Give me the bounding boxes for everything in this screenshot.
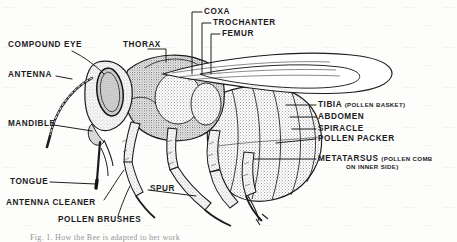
label-tibia-text: TIBIA <box>318 100 342 109</box>
label-abdomen: ABDOMEN <box>318 113 364 121</box>
label-femur: FEMUR <box>222 30 254 38</box>
label-metatarsus-note: (POLLEN COMB <box>381 155 432 162</box>
label-compound-eye: COMPOUND EYE <box>8 41 82 49</box>
label-tibia-note: (POLLEN BASKET) <box>345 101 406 108</box>
label-tibia: TIBIA (POLLEN BASKET) <box>318 101 405 109</box>
label-antenna-cleaner: ANTENNA CLEANER <box>6 199 96 207</box>
label-spur: SPUR <box>150 185 175 193</box>
figure-caption: Fig. 1. How the Bee is adapted to her wo… <box>30 233 430 242</box>
label-coxa: COXA <box>204 8 230 16</box>
label-pollen-packer: POLLEN PACKER <box>318 135 395 143</box>
label-pollen-brushes: POLLEN BRUSHES <box>58 216 141 224</box>
label-mandible: MANDIBLE <box>8 120 56 128</box>
label-metatarsus-note2: ON INNER SIDE) <box>346 164 433 170</box>
label-tongue: TONGUE <box>10 178 48 186</box>
label-metatarsus: METATARSUS (POLLEN COMB ON INNER SIDE) <box>318 155 433 170</box>
label-trochanter: TROCHANTER <box>213 19 276 27</box>
label-spiracle: SPIRACLE <box>318 125 364 133</box>
label-thorax: THORAX <box>123 41 161 49</box>
label-metatarsus-text: METATARSUS <box>318 154 379 163</box>
label-antenna: ANTENNA <box>8 71 52 79</box>
